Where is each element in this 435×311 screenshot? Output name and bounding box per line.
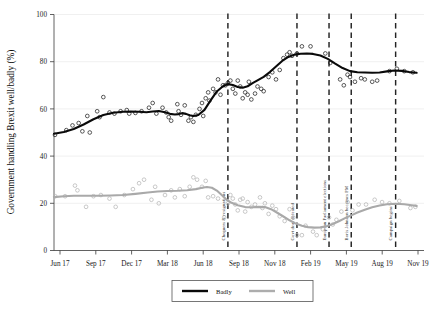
y-tick-label: 80 (40, 58, 48, 66)
x-tick-label: Nov 18 (264, 260, 286, 268)
chart-container: Chequers & resignationsGovt deal defeate… (0, 0, 435, 311)
event-label: Boris Johnson becomes PM (344, 186, 349, 241)
y-tick-label: 60 (40, 106, 48, 114)
y-tick-label: 0 (43, 247, 47, 255)
legend: Badly Well (172, 281, 313, 302)
x-tick-label: Jun 17 (51, 260, 70, 268)
y-tick-label: 40 (40, 153, 48, 161)
x-tick-label: Nov 19 (407, 260, 429, 268)
legend-label-badly: Badly (216, 288, 232, 295)
brexit-handling-chart: Chequers & resignationsGovt deal defeate… (0, 0, 435, 311)
x-tick-label: Jun 18 (194, 260, 213, 268)
x-tick-label: Feb 19 (301, 260, 321, 268)
event-label: Campaign begins (388, 206, 393, 240)
x-tick-label: Mar 18 (157, 260, 178, 268)
x-tick-label: May 19 (335, 260, 358, 268)
x-tick-label: Sep 18 (229, 260, 249, 268)
y-tick-label: 100 (36, 11, 47, 19)
legend-label-well: Well (283, 288, 295, 295)
x-tick-label: Aug 19 (372, 260, 394, 268)
x-tick-label: Dec 17 (121, 260, 142, 268)
x-tick-label: Sep 17 (86, 260, 106, 268)
y-axis-label: Government handling Brexit well/badly (%… (6, 50, 17, 215)
y-tick-label: 20 (40, 200, 48, 208)
